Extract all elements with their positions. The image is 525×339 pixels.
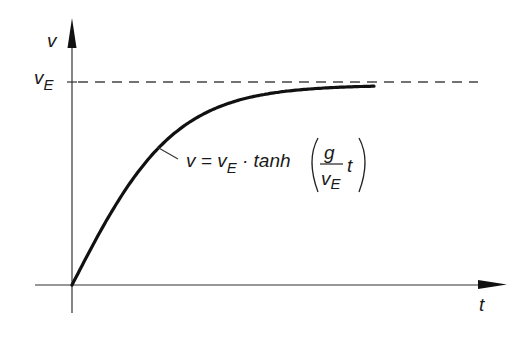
annotation-leader: [157, 147, 178, 159]
formula-lhs: v = vE · tanh: [186, 150, 291, 176]
formula-right-paren: [359, 138, 365, 192]
formula-annotation: v = vE · tanh g vE t: [186, 138, 365, 192]
x-axis-label: t: [479, 294, 485, 315]
y-axis-arrow-icon: [68, 18, 77, 48]
formula-t: t: [347, 155, 353, 176]
y-axis-label: v: [47, 30, 58, 51]
formula-frac-numerator: g: [324, 142, 335, 163]
formula-left-paren: [312, 138, 318, 192]
velocity-time-chart: v t vE v = vE · tanh g vE t: [0, 0, 525, 339]
asymptote-label: vE: [34, 67, 55, 93]
formula-frac-denominator: vE: [321, 168, 342, 192]
x-axis-arrow-icon: [478, 280, 507, 289]
